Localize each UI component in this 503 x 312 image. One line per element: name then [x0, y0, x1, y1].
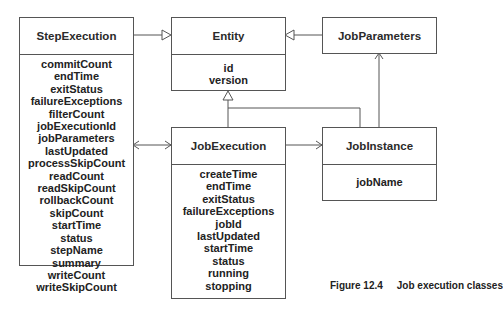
attribute: readCount — [20, 170, 133, 182]
generalization-arrow-icon — [162, 30, 171, 40]
class-step-execution: StepExecution commitCount endTime exitSt… — [19, 17, 134, 266]
class-job-instance: JobInstance jobName — [322, 127, 437, 201]
attribute: writeCount — [20, 269, 133, 281]
class-name: Entity — [172, 18, 285, 55]
attribute: status — [20, 232, 133, 244]
attribute: summary — [20, 257, 133, 269]
attribute: version — [172, 74, 285, 86]
attribute: lastUpdated — [172, 230, 285, 242]
attribute: lastUpdated — [20, 145, 133, 157]
class-name: JobExecution — [172, 128, 285, 165]
attribute: exitStatus — [20, 83, 133, 95]
class-job-execution: JobExecution createTime endTime exitStat… — [171, 127, 286, 299]
figure-title: Job execution classes — [397, 280, 503, 291]
attribute: stepName — [20, 244, 133, 256]
class-entity: Entity id version — [171, 17, 286, 91]
attribute-list: jobName — [323, 165, 436, 188]
attribute: running — [172, 267, 285, 279]
attribute: writeSkipCount — [20, 281, 133, 293]
attribute-list: id version — [172, 55, 285, 87]
attribute: jobParameters — [20, 132, 133, 144]
attribute: jobExecutionId — [20, 120, 133, 132]
attribute-list: commitCount endTime exitStatus failureEx… — [20, 55, 133, 294]
figure-caption: Figure 12.4Job execution classes — [330, 280, 503, 291]
attribute: jobName — [323, 176, 436, 188]
attribute: id — [172, 62, 285, 74]
attribute: failureExceptions — [20, 95, 133, 107]
attribute: skipCount — [20, 207, 133, 219]
attribute: jobId — [172, 218, 285, 230]
class-job-parameters: JobParameters — [322, 17, 437, 54]
attribute: endTime — [20, 70, 133, 82]
class-name: JobParameters — [323, 18, 436, 54]
attribute: status — [172, 255, 285, 267]
attribute: startTime — [20, 219, 133, 231]
attribute: filterCount — [20, 108, 133, 120]
attribute: commitCount — [20, 58, 133, 70]
attribute: stopping — [172, 280, 285, 292]
attribute-list: createTime endTime exitStatus failureExc… — [172, 165, 285, 292]
generalization-arrow-icon — [223, 91, 233, 100]
attribute: readSkipCount — [20, 182, 133, 194]
class-name: JobInstance — [323, 128, 436, 165]
class-name: StepExecution — [20, 18, 133, 55]
attribute: processSkipCount — [20, 157, 133, 169]
attribute: rollbackCount — [20, 194, 133, 206]
figure-label: Figure 12.4 — [330, 280, 383, 291]
jobinstance-to-entity-line — [228, 108, 360, 127]
attribute: exitStatus — [172, 193, 285, 205]
attribute: createTime — [172, 168, 285, 180]
attribute: endTime — [172, 180, 285, 192]
attribute: failureExceptions — [172, 205, 285, 217]
generalization-arrow-icon — [285, 30, 294, 40]
attribute: startTime — [172, 242, 285, 254]
